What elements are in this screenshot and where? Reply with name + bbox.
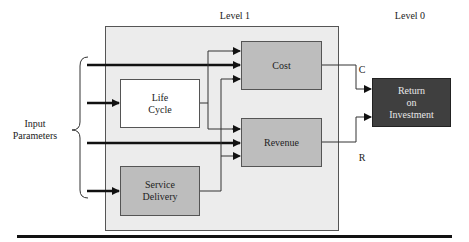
connector-lines bbox=[0, 0, 469, 242]
input-brace bbox=[72, 57, 88, 198]
bottom-rule bbox=[17, 235, 452, 238]
